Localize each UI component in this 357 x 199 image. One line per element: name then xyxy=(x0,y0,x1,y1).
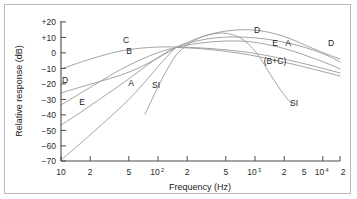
x-tick-label: 5 xyxy=(223,167,228,177)
x-axis-title: Frequency (Hz) xyxy=(169,182,231,192)
y-tick-label: +10 xyxy=(42,33,57,43)
curve-label-e-mid: E xyxy=(272,38,278,48)
y-tick-label: −20 xyxy=(42,79,57,89)
x-tick-label: 10 xyxy=(315,167,325,177)
y-tick-label: −70 xyxy=(42,156,57,166)
y-tick-labels: +20 +10 0 −10 −20 −30 −40 −50 −60 −70 xyxy=(42,17,57,166)
x-tick-label: 2 xyxy=(341,167,346,177)
x-tick-label-exponent: 3 xyxy=(258,167,261,173)
curve-c xyxy=(61,47,340,73)
y-tick-label: 0 xyxy=(51,48,56,58)
curve-label-d-left: D xyxy=(62,75,68,85)
x-tick-label: 2 xyxy=(185,167,190,177)
x-tick-label: 10 xyxy=(56,167,66,177)
y-tick-label: −50 xyxy=(42,126,57,136)
curve-label-si-right: SI xyxy=(290,98,298,108)
curve-label-e-left: E xyxy=(79,97,85,107)
curve-label-a-left: A xyxy=(128,78,134,88)
curve-label-d-top: D xyxy=(254,25,260,35)
curve-label-d-right: D xyxy=(328,38,334,48)
x-tick-label: 5 xyxy=(302,167,307,177)
curve-label-si-left: SI xyxy=(152,80,160,90)
x-tick-label: 5 xyxy=(126,167,131,177)
y-tick-label: −30 xyxy=(42,95,57,105)
y-tick-label: −60 xyxy=(42,141,57,151)
x-tick-label: 2 xyxy=(88,167,93,177)
y-tick-label: −40 xyxy=(42,110,57,120)
figure-container: +20 +10 0 −10 −20 −30 −40 −50 −60 −70 10… xyxy=(0,0,357,199)
curve-label-c-left: C xyxy=(123,35,129,45)
y-tick-label: +20 xyxy=(42,17,57,27)
curve-label-b-plus-c: (B+C) xyxy=(264,56,287,66)
x-tick-label: 2 xyxy=(282,167,287,177)
x-tick-label-exponent: 4 xyxy=(325,167,328,173)
x-tick-label: 10 xyxy=(247,167,257,177)
curve-b xyxy=(61,48,340,106)
x-tick-label-exponent: 2 xyxy=(161,167,164,173)
y-axis-title: Relative response (dB) xyxy=(14,45,24,137)
y-tick-label: −10 xyxy=(42,64,57,74)
x-tick-marks xyxy=(61,156,340,161)
curve-label-group: C B D A SI E D E A D (B+C) SI xyxy=(62,25,334,108)
frequency-response-chart: +20 +10 0 −10 −20 −30 −40 −50 −60 −70 10… xyxy=(0,0,357,199)
curve-group xyxy=(61,30,340,160)
curve-label-a-mid: A xyxy=(285,38,291,48)
x-tick-labels: 10 2 5 10 2 2 5 10 3 2 5 10 4 2 xyxy=(56,167,345,178)
curve-label-b-left: B xyxy=(126,46,132,56)
curve-d xyxy=(61,30,340,93)
curve-e xyxy=(61,41,340,125)
x-tick-label: 10 xyxy=(150,167,160,177)
